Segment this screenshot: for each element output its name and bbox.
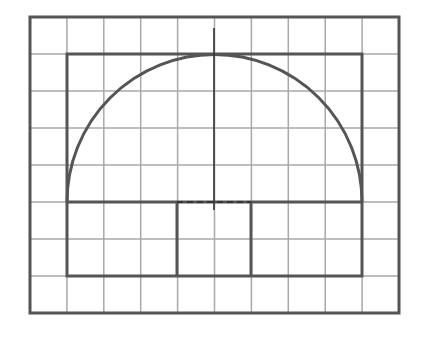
grid-diagram	[0, 0, 426, 342]
